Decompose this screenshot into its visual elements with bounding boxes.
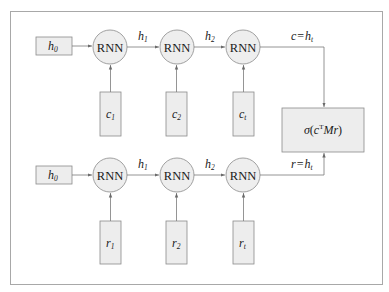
- top-rnn-label-1: RNN: [97, 41, 123, 55]
- bottom-rnn-label-2: RNN: [164, 169, 190, 183]
- bottom-output-label: r=ht: [291, 157, 313, 172]
- top-output-label: c=ht: [291, 29, 314, 44]
- top-rnn-label-2: RNN: [164, 41, 190, 55]
- diagram-canvas: h0 RNN h1 RNN h2 RNN c1 c2 ct c=ht σ(cTM…: [0, 0, 389, 292]
- scoring-function: σ(cTMr): [282, 108, 364, 152]
- bottom-rnn-label-1: RNN: [97, 169, 123, 183]
- top-rnn-label-3: RNN: [230, 41, 256, 55]
- scoring-formula: σ(cTMr): [304, 123, 342, 137]
- bottom-rnn-label-3: RNN: [230, 169, 256, 183]
